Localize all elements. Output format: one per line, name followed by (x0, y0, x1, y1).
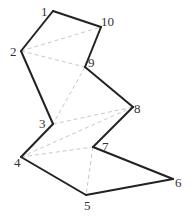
edge-10-1 (53, 11, 101, 27)
edge-5-6 (86, 179, 173, 195)
diagonal-7-5 (86, 147, 93, 195)
vertex-label-2: 2 (10, 44, 17, 59)
vertex-label-4: 4 (14, 155, 21, 170)
vertex-label-5: 5 (84, 198, 91, 213)
edge-3-4 (21, 124, 53, 157)
diagonal-4-7 (21, 147, 93, 157)
diagonal-9-3 (53, 67, 85, 124)
diagonal-2-9 (21, 51, 85, 67)
diagonals (21, 27, 133, 195)
vertex-label-8: 8 (134, 101, 141, 116)
edge-2-3 (21, 51, 53, 124)
vertex-label-6: 6 (175, 175, 182, 190)
edge-8-9 (85, 67, 133, 107)
polygon-edges (21, 11, 173, 195)
vertex-label-7: 7 (102, 139, 109, 154)
edge-1-2 (21, 11, 53, 51)
triangulated-polygon-diagram: 1 2 3 4 5 6 7 8 9 10 (0, 0, 191, 218)
diagonal-3-8 (53, 107, 133, 124)
vertex-label-3: 3 (39, 116, 46, 131)
vertex-label-10: 10 (101, 14, 114, 29)
vertex-label-9: 9 (88, 55, 95, 70)
diagonal-2-10 (21, 27, 101, 51)
edge-4-5 (21, 157, 86, 195)
vertex-label-1: 1 (41, 4, 48, 19)
edge-7-8 (93, 107, 133, 147)
